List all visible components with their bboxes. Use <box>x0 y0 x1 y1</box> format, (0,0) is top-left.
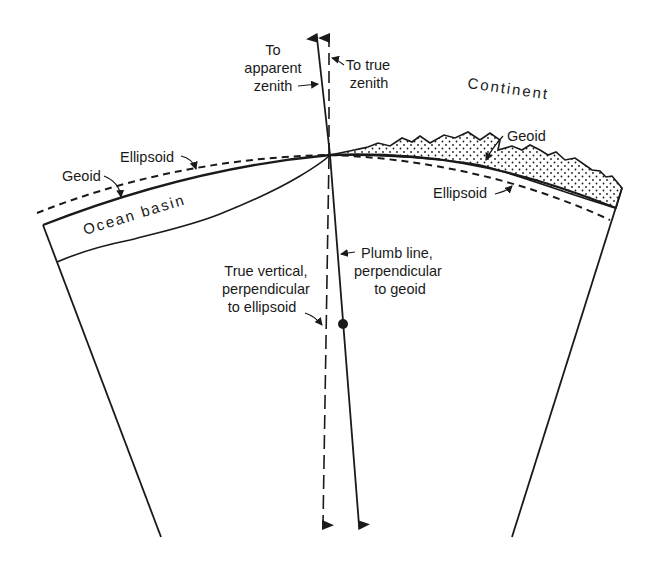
leader-true-zenith <box>332 58 344 65</box>
label-continent: Continent <box>467 74 551 102</box>
label-geoid-right: Geoid <box>507 128 546 144</box>
wedge-left-edge <box>43 225 161 537</box>
label-true-vertical: True vertical, perpendicular to ellipsoi… <box>222 263 314 315</box>
leader-plumb-line <box>341 252 355 254</box>
label-ellipsoid-left: Ellipsoid <box>120 149 174 165</box>
label-to-true-zenith: To true zenith <box>346 57 394 91</box>
wedge-right-edge <box>512 188 622 537</box>
geoid-ellipsoid-diagram: To apparent zenith To true zenith Contin… <box>0 0 661 581</box>
label-plumb-line: Plumb line, perpendicular to geoid <box>354 245 446 297</box>
label-ellipsoid-right: Ellipsoid <box>433 185 487 201</box>
plumb-line <box>330 155 359 525</box>
apparent-zenith-line <box>317 38 330 155</box>
leader-ellipsoid-left <box>181 156 196 169</box>
plumb-bob <box>338 319 348 329</box>
leader-apparent-zenith <box>298 84 318 86</box>
geoid-curve-left <box>43 155 330 225</box>
label-to-apparent-zenith: To apparent zenith <box>244 42 305 94</box>
leader-true-vertical <box>305 313 322 325</box>
true-vertical-line <box>323 155 329 525</box>
leader-ellipsoid-right <box>495 186 512 194</box>
label-geoid-left: Geoid <box>62 168 101 184</box>
label-ocean-basin: Ocean basin <box>81 191 188 238</box>
